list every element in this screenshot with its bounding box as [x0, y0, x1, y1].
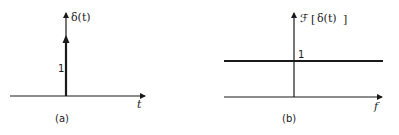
caption-a: (a)	[55, 113, 69, 124]
spectrum-axis-bracket-close: ]	[343, 13, 347, 26]
panel-b: ℱ [ δ(t) ] 1 f (b)	[224, 12, 383, 124]
impulse-area-label: 1	[58, 63, 64, 74]
caption-b: (b)	[282, 113, 296, 124]
t-axis-label: t	[137, 98, 142, 111]
level-label: 1	[298, 49, 304, 60]
spectrum-axis-label-prefix: ℱ	[300, 12, 309, 25]
impulse-arrowhead	[63, 35, 70, 43]
spectrum-axis-bracket-open: [	[311, 13, 315, 26]
panel-a: δ(t) 1 t (a)	[10, 11, 145, 124]
figure: δ(t) 1 t (a) ℱ [ δ(t) ] 1 f (b)	[0, 0, 399, 135]
spectrum-axis-label-inner: δ(t)	[317, 12, 337, 25]
delta-axis-label: δ(t)	[71, 11, 91, 24]
f-axis-label: f	[373, 100, 380, 113]
